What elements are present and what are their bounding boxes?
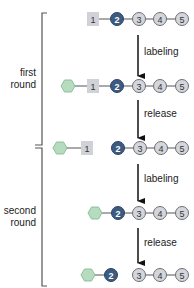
svg-text:2: 2 xyxy=(108,271,113,281)
step-label-release-2: release xyxy=(144,237,177,248)
chain-row-1: 1 2 3 4 5 xyxy=(87,12,189,26)
label-tag-hexagon-icon xyxy=(53,142,67,154)
first-round-label-line1: first xyxy=(20,67,36,78)
chain-row-5: 2 3 4 5 xyxy=(81,269,189,282)
svg-text:1: 1 xyxy=(84,144,89,154)
label-tag-hexagon-icon xyxy=(61,80,75,92)
svg-text:3: 3 xyxy=(136,271,141,281)
svg-text:3: 3 xyxy=(136,82,141,92)
step-label-labeling-2: labeling xyxy=(144,173,178,184)
svg-text:4: 4 xyxy=(157,209,162,219)
chain-row-2: 1 2 3 4 5 xyxy=(61,79,189,93)
sequencing-diagram: first round second round labeling releas… xyxy=(0,0,194,288)
svg-text:2: 2 xyxy=(114,15,119,25)
svg-text:3: 3 xyxy=(136,15,141,25)
label-tag-hexagon-icon xyxy=(81,269,95,281)
second-round-label-line2: round xyxy=(10,217,36,228)
svg-text:5: 5 xyxy=(179,144,184,154)
svg-text:2: 2 xyxy=(115,209,120,219)
step-label-release-1: release xyxy=(144,108,177,119)
first-round-label-line2: round xyxy=(10,79,36,90)
svg-text:3: 3 xyxy=(136,209,141,219)
chain-row-4: 2 3 4 5 xyxy=(88,207,189,220)
svg-text:4: 4 xyxy=(158,144,163,154)
second-round-label-line1: second xyxy=(4,205,36,216)
svg-text:5: 5 xyxy=(179,15,184,25)
svg-text:4: 4 xyxy=(157,271,162,281)
svg-text:1: 1 xyxy=(90,82,95,92)
svg-text:3: 3 xyxy=(137,144,142,154)
chain-row-3: 1 2 3 4 5 xyxy=(53,141,189,155)
svg-text:5: 5 xyxy=(179,271,184,281)
second-round-bracket xyxy=(35,148,47,286)
svg-text:5: 5 xyxy=(179,209,184,219)
svg-text:4: 4 xyxy=(157,15,162,25)
label-tag-hexagon-icon xyxy=(88,207,102,219)
svg-text:5: 5 xyxy=(179,82,184,92)
svg-text:4: 4 xyxy=(157,82,162,92)
svg-text:2: 2 xyxy=(115,144,120,154)
first-round-bracket xyxy=(35,13,47,145)
step-label-labeling-1: labeling xyxy=(144,46,178,57)
svg-text:2: 2 xyxy=(114,82,119,92)
svg-text:1: 1 xyxy=(90,15,95,25)
